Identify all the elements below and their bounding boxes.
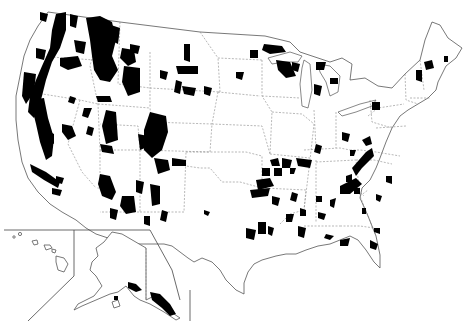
conterminous-us-outline bbox=[16, 12, 462, 294]
us-national-forests-map bbox=[0, 0, 471, 321]
hawaii-inset bbox=[13, 232, 68, 272]
